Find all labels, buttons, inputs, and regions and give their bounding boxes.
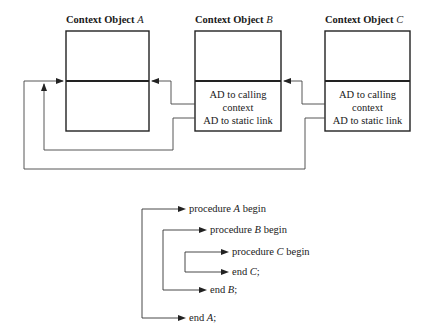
semicolon: ; xyxy=(234,284,237,295)
context-object-a-box xyxy=(66,31,149,131)
keyword: procedure xyxy=(189,203,231,214)
bracket-c xyxy=(185,252,221,272)
keyword: procedure xyxy=(232,246,274,257)
procedure-b-end: end B; xyxy=(210,285,237,296)
procedure-a-begin: procedure A begin xyxy=(189,204,266,215)
context-object-c-title: Context Object C xyxy=(325,15,403,26)
context-object-c-cell: AD to calling context AD to static link xyxy=(325,88,410,127)
cell-line: AD to calling xyxy=(325,88,410,101)
cell-line: context xyxy=(325,101,410,114)
semicolon: ; xyxy=(213,312,216,323)
keyword: end xyxy=(210,284,225,295)
keyword: end xyxy=(189,312,204,323)
procedure-a-end: end A; xyxy=(189,313,216,324)
link-b-calling-to-a xyxy=(152,81,195,104)
context-object-b-cell: AD to calling context AD to static link xyxy=(195,88,281,127)
procedure-c-begin: procedure C begin xyxy=(232,247,310,258)
title-var: B xyxy=(266,14,272,25)
cell-line: AD to static link xyxy=(325,114,410,127)
cell-line: context xyxy=(195,101,281,114)
title-var: C xyxy=(396,14,403,25)
title-var: A xyxy=(137,14,143,25)
link-c-calling-to-b xyxy=(284,81,325,104)
bracket-a xyxy=(142,209,178,318)
context-object-a-title: Context Object A xyxy=(66,15,144,26)
procedure-b-begin: procedure B begin xyxy=(210,225,287,236)
title-text: Context Object xyxy=(325,14,394,25)
cell-line: AD to calling xyxy=(195,88,281,101)
bracket-b xyxy=(163,230,199,290)
proc-name: C xyxy=(250,266,257,277)
title-text: Context Object xyxy=(66,14,135,25)
proc-name: B xyxy=(255,224,261,235)
title-text: Context Object xyxy=(195,14,264,25)
semicolon: ; xyxy=(257,266,260,277)
cell-line: AD to static link xyxy=(195,114,281,127)
proc-name: A xyxy=(234,203,240,214)
keyword: procedure xyxy=(210,224,252,235)
keyword: begin xyxy=(264,224,287,235)
keyword: end xyxy=(232,266,247,277)
keyword: begin xyxy=(286,246,309,257)
context-object-b-title: Context Object B xyxy=(195,15,273,26)
procedure-c-end: end C; xyxy=(232,267,260,278)
proc-name: C xyxy=(277,246,284,257)
keyword: begin xyxy=(243,203,266,214)
